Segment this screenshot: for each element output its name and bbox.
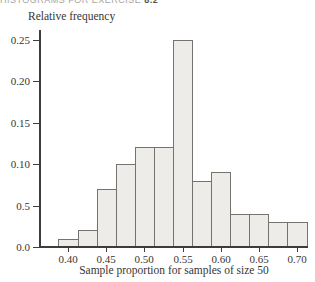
y-tick-label: 0.5 xyxy=(0,200,30,212)
x-tick-mark xyxy=(221,247,222,252)
histogram-bar xyxy=(78,230,98,247)
histogram-bar xyxy=(211,172,231,247)
y-tick-label: 0.25 xyxy=(0,34,30,46)
histogram-bar xyxy=(249,214,269,247)
y-tick-label: 0.15 xyxy=(0,117,30,129)
y-axis-line xyxy=(39,30,41,248)
histogram-bar xyxy=(154,147,174,247)
histogram-figure: HISTOGRAMS FOR EXERCISE 8.2 Relative fre… xyxy=(0,0,315,282)
histogram-bar xyxy=(97,189,117,247)
x-tick-mark xyxy=(68,247,69,252)
x-tick-mark xyxy=(183,247,184,252)
histogram-bar xyxy=(268,222,288,247)
x-axis-line xyxy=(39,246,308,248)
y-tick-label: 0.10 xyxy=(0,158,30,170)
x-tick-mark xyxy=(144,247,145,252)
x-tick-mark xyxy=(297,247,298,252)
histogram-bar xyxy=(116,164,136,247)
histogram-bar xyxy=(287,222,308,247)
histogram-bar xyxy=(230,214,250,247)
x-tick-mark xyxy=(259,247,260,252)
histogram-bar xyxy=(192,181,212,247)
x-axis-title: Sample proportion for samples of size 50 xyxy=(40,264,308,276)
x-tick-mark xyxy=(106,247,107,252)
histogram-plot: 0.250.200.150.100.50.0 0.400.450.500.550… xyxy=(0,0,315,282)
histogram-bar xyxy=(173,40,193,247)
y-tick-label: 0.20 xyxy=(0,75,30,87)
histogram-bar xyxy=(135,147,155,247)
y-tick-label: 0.0 xyxy=(0,241,30,253)
